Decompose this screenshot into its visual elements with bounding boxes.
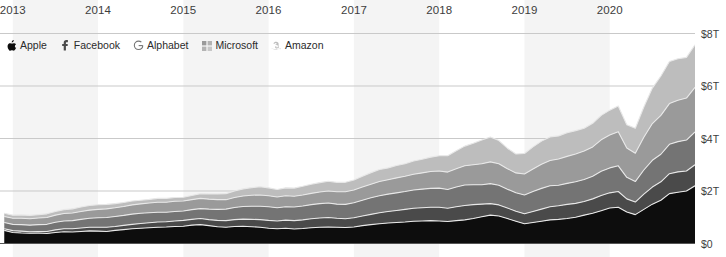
y-tick-label-2T: $2T [701, 185, 719, 197]
legend-label: Facebook [74, 40, 120, 51]
facebook-icon [60, 40, 71, 51]
chart-legend: AppleFacebookAlphabetMicrosoftAmazon [6, 38, 324, 53]
legend-item-apple[interactable]: Apple [6, 40, 47, 51]
legend-item-alphabet[interactable]: Alphabet [133, 40, 188, 51]
legend-label: Alphabet [147, 40, 188, 51]
microsoft-icon [201, 40, 212, 51]
stacked-area-chart: 20132014201520162017201820192020 $0$2T$4… [0, 0, 726, 257]
y-tick-label-4T: $4T [701, 133, 719, 145]
legend-label: Amazon [285, 40, 324, 51]
y-tick-label-6T: $6T [701, 80, 719, 92]
legend-item-facebook[interactable]: Facebook [60, 40, 120, 51]
legend-label: Apple [20, 40, 47, 51]
alphabet-icon [133, 40, 144, 51]
legend-label: Microsoft [215, 40, 258, 51]
amazon-icon [271, 40, 282, 51]
y-tick-label-8T: $8T [701, 28, 719, 40]
y-axis: $0$2T$4T$6T$8T [697, 0, 726, 257]
legend-item-microsoft[interactable]: Microsoft [201, 40, 258, 51]
apple-icon [6, 40, 17, 51]
y-tick-label-0: $0 [701, 238, 713, 250]
legend-item-amazon[interactable]: Amazon [271, 40, 324, 51]
